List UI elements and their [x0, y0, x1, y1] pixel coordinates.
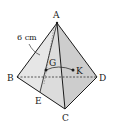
label-d: D	[99, 73, 106, 83]
label-k: K	[76, 66, 83, 76]
point-g	[45, 69, 48, 72]
label-g: G	[49, 58, 56, 68]
label-e: E	[35, 96, 42, 106]
point-k	[72, 69, 75, 72]
label-a: A	[52, 10, 60, 20]
point-a	[56, 22, 58, 24]
label-b: B	[7, 73, 14, 83]
label-c: C	[62, 113, 69, 123]
pyramid-diagram: A B C D E G K 6 cm	[0, 0, 114, 135]
label-measure: 6 cm	[17, 33, 37, 42]
